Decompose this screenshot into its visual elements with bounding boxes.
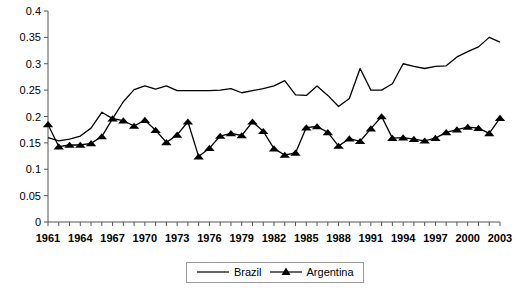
series-brazil bbox=[48, 37, 500, 140]
y-axis-tick-label: 0.1 bbox=[26, 163, 41, 175]
data-point-marker bbox=[204, 145, 214, 151]
x-axis-tick-label: 1976 bbox=[197, 232, 221, 244]
x-axis-tick-label: 1988 bbox=[326, 232, 350, 244]
x-axis-tick-label: 1967 bbox=[100, 232, 124, 244]
data-point-marker bbox=[290, 150, 300, 156]
x-axis-tick-label: 1970 bbox=[133, 232, 157, 244]
legend-item-brazil: Brazil bbox=[196, 266, 262, 278]
x-axis-tick-label: 1979 bbox=[229, 232, 253, 244]
x-axis-tick-label: 1985 bbox=[294, 232, 318, 244]
y-axis-tick-label: 0.3 bbox=[26, 58, 41, 70]
data-point-marker bbox=[376, 113, 386, 119]
data-point-marker bbox=[43, 121, 53, 127]
y-axis-tick-label: 0.35 bbox=[20, 31, 41, 43]
y-axis-tick-label: 0.25 bbox=[20, 84, 41, 96]
legend-line-swatch bbox=[196, 267, 230, 277]
y-axis-tick-label: 0.4 bbox=[26, 5, 41, 17]
data-point-marker bbox=[97, 133, 107, 139]
data-point-marker bbox=[366, 125, 376, 131]
data-point-marker bbox=[247, 118, 257, 124]
x-axis-tick-label: 1997 bbox=[423, 232, 447, 244]
x-axis-tick-label: 1973 bbox=[165, 232, 189, 244]
x-axis-tick-label: 1964 bbox=[68, 232, 93, 244]
legend-label-argentina: Argentina bbox=[307, 266, 354, 278]
data-point-marker bbox=[495, 115, 505, 121]
chart-plot-area: 00.050.10.150.20.250.30.350.4 1961196419… bbox=[0, 0, 520, 300]
y-axis: 00.050.10.150.20.250.30.350.4 bbox=[20, 5, 48, 228]
y-axis-tick-label: 0.05 bbox=[20, 190, 41, 202]
y-axis-tick-label: 0.2 bbox=[26, 111, 41, 123]
legend-item-argentina: Argentina bbox=[269, 266, 354, 278]
legend-triangle-swatch bbox=[269, 267, 303, 277]
data-point-marker bbox=[226, 130, 236, 136]
data-point-marker bbox=[269, 145, 279, 151]
data-point-marker bbox=[140, 117, 150, 123]
x-axis-tick-label: 1961 bbox=[36, 232, 60, 244]
series-argentina bbox=[43, 113, 505, 159]
x-axis-tick-label: 1982 bbox=[262, 232, 286, 244]
y-axis-tick-label: 0 bbox=[35, 216, 41, 228]
x-axis: 1961196419671970197319761979198219851988… bbox=[36, 222, 512, 244]
data-series-group bbox=[43, 37, 505, 159]
data-point-marker bbox=[150, 127, 160, 133]
chart-legend: Brazil Argentina bbox=[186, 262, 364, 283]
line-chart: 00.050.10.150.20.250.30.350.4 1961196419… bbox=[0, 0, 520, 300]
data-point-marker bbox=[183, 118, 193, 124]
x-axis-tick-label: 2003 bbox=[488, 232, 512, 244]
data-point-marker bbox=[344, 135, 354, 141]
y-axis-tick-label: 0.15 bbox=[20, 137, 41, 149]
x-axis-tick-label: 1991 bbox=[359, 232, 383, 244]
legend-label-brazil: Brazil bbox=[234, 266, 262, 278]
data-point-marker bbox=[172, 132, 182, 138]
x-axis-tick-label: 1994 bbox=[391, 232, 416, 244]
x-axis-tick-label: 2000 bbox=[455, 232, 479, 244]
series-line bbox=[48, 37, 500, 140]
